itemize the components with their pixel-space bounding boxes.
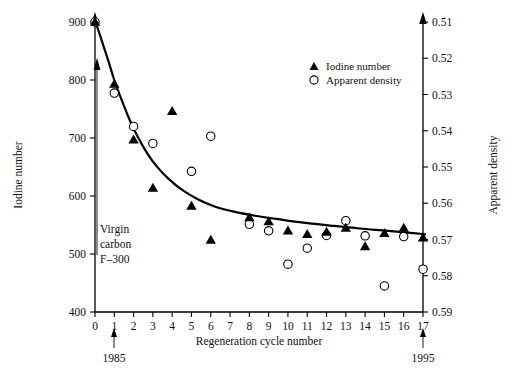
data-point-apparent-density (303, 244, 311, 252)
data-point-apparent-density (245, 220, 253, 228)
data-point-apparent-density (207, 132, 215, 140)
x-axis-tick-label: 10 (282, 320, 294, 332)
y-axis-right-tick-label: 0.51 (432, 16, 452, 28)
x-axis-tick-label: 0 (92, 320, 98, 332)
x-axis-tick-label: 7 (227, 320, 233, 332)
x-axis-tick-label: 12 (321, 320, 333, 332)
data-point-apparent-density (419, 265, 427, 273)
x-axis-ticks: 01234567891011121314151617 (92, 312, 429, 332)
data-point-iodine-number (321, 227, 331, 236)
data-point-apparent-density (400, 232, 408, 240)
data-point-iodine-number (206, 235, 216, 244)
legend-filled-triangle-icon (310, 62, 319, 70)
series-iodine-number-markers (90, 17, 428, 250)
y-axis-right-tick-label: 0.55 (432, 161, 452, 173)
y-axis-left-tick-label: 900 (69, 16, 87, 28)
legend-label-iodine-number: Iodine number (326, 60, 391, 72)
x-axis-title: Regeneration cycle number (196, 335, 323, 348)
data-point-apparent-density (149, 139, 157, 147)
y-axis-right-tick-label: 0.52 (432, 52, 452, 64)
x-axis-tick-label: 6 (208, 320, 214, 332)
y-axis-right-tick-label: 0.59 (432, 306, 452, 318)
virgin-carbon-line-3: F–300 (100, 253, 130, 265)
x-axis-tick-label: 11 (302, 320, 313, 332)
y-axis-right-tick-label: 0.54 (432, 125, 452, 137)
y-axis-right-tick-label: 0.58 (432, 270, 452, 282)
y-axis-left-ticks: 400500600700800900 (69, 16, 95, 318)
fit-curve (96, 23, 425, 234)
data-point-apparent-density (361, 232, 369, 240)
series-apparent-density-markers (91, 18, 427, 290)
y-axis-left-tick-label: 400 (69, 306, 87, 318)
data-point-iodine-number (148, 183, 158, 192)
x-axis-tick-label: 13 (340, 320, 352, 332)
data-point-apparent-density (380, 282, 388, 290)
virgin-carbon-line-2: carbon (100, 238, 132, 250)
annotation-year-1985: 1985 (103, 328, 126, 364)
year-1995-label: 1995 (412, 352, 435, 364)
y-axis-right-tick-label: 0.57 (432, 234, 452, 246)
x-axis-tick-label: 2 (131, 320, 137, 332)
x-axis-tick-label: 4 (169, 320, 175, 332)
y-axis-right-tick-label: 0.56 (432, 197, 452, 209)
annotation-year-1995: 1995 (412, 328, 435, 364)
axes-group (91, 12, 427, 312)
data-point-apparent-density (187, 167, 195, 175)
data-point-apparent-density (110, 89, 118, 97)
data-point-iodine-number (186, 201, 196, 210)
virgin-carbon-line-1: Virgin (100, 223, 129, 236)
year-1985-label: 1985 (103, 352, 126, 364)
data-point-apparent-density (129, 122, 137, 130)
y-axis-left-tick-label: 800 (69, 74, 87, 86)
chart-legend: Iodine number Apparent density (310, 60, 402, 86)
y-axis-left-tick-label: 700 (69, 132, 87, 144)
data-point-apparent-density (284, 260, 292, 268)
x-axis-tick-label: 15 (379, 320, 391, 332)
y-axis-left-title: Iodine number (12, 141, 24, 209)
data-point-iodine-number (109, 79, 119, 88)
x-axis-tick-label: 14 (359, 320, 371, 332)
scatter-chart: 400500600700800900 0.510.520.530.540.550… (0, 0, 517, 373)
legend-open-circle-icon (310, 76, 318, 84)
y-axis-right-ticks: 0.510.520.530.540.550.560.570.580.59 (423, 16, 452, 318)
data-point-iodine-number (302, 229, 312, 238)
y-axis-left-tick-label: 600 (69, 190, 87, 202)
legend-label-apparent-density: Apparent density (326, 74, 402, 86)
y-axis-left-tick-label: 500 (69, 248, 87, 260)
x-axis-tick-label: 3 (150, 320, 156, 332)
figure-container: 400500600700800900 0.510.520.530.540.550… (0, 0, 517, 373)
x-axis-tick-label: 9 (266, 320, 272, 332)
data-point-iodine-number (360, 241, 370, 250)
y-axis-right-title: Apparent density (487, 135, 500, 214)
data-point-apparent-density (264, 227, 272, 235)
data-point-iodine-number (399, 223, 409, 232)
x-axis-tick-label: 16 (398, 320, 410, 332)
y-axis-right-tick-label: 0.53 (432, 89, 452, 101)
x-axis-tick-label: 8 (246, 320, 252, 332)
data-point-iodine-number (167, 106, 177, 115)
x-axis-tick-label: 5 (189, 320, 195, 332)
data-point-iodine-number (283, 226, 293, 235)
